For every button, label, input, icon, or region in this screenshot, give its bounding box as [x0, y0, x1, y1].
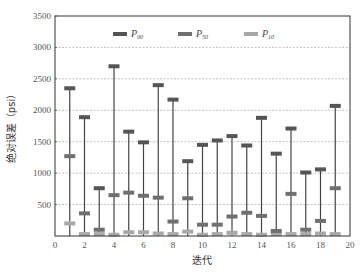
marker-p90 — [109, 64, 120, 68]
marker-p90 — [212, 138, 223, 142]
x-tick-label: 20 — [346, 240, 356, 250]
range-chart: 500100015002000250030003500 024681012141… — [0, 0, 361, 273]
x-tick-label: 6 — [141, 240, 146, 250]
y-tick-label: 3000 — [33, 42, 52, 52]
marker-p50 — [64, 154, 75, 158]
legend-subscript: 90 — [137, 34, 143, 40]
marker-p90 — [94, 186, 105, 190]
x-tick-label: 0 — [53, 240, 58, 250]
marker-p50 — [286, 192, 297, 196]
legend-label-p10: P10 — [261, 28, 274, 40]
x-tick-label: 18 — [316, 240, 326, 250]
marker-p90 — [286, 127, 297, 131]
marker-p10 — [123, 230, 134, 234]
marker-p10 — [227, 231, 238, 235]
legend-swatch-p50 — [178, 32, 192, 36]
marker-p90 — [79, 115, 90, 119]
marker-p50 — [256, 214, 267, 218]
marker-p90 — [315, 167, 326, 171]
y-tick-label: 500 — [38, 200, 52, 210]
marker-p50 — [94, 228, 105, 232]
marker-p10 — [64, 221, 75, 225]
marker-p50 — [138, 194, 149, 198]
marker-p50 — [315, 219, 326, 223]
marker-p50 — [227, 215, 238, 219]
legend-subscript: 10 — [268, 34, 274, 40]
legend-label-p50: P50 — [195, 28, 208, 40]
marker-p50 — [79, 211, 90, 215]
marker-p50 — [300, 228, 311, 232]
marker-p50 — [168, 220, 179, 224]
legend-label-p90: P90 — [130, 28, 143, 40]
marker-p90 — [168, 98, 179, 102]
marker-p90 — [123, 130, 134, 134]
marker-p50 — [241, 211, 252, 215]
legend-swatch-p90 — [113, 32, 127, 36]
y-tick-label: 2500 — [33, 74, 52, 84]
x-tick-label: 12 — [228, 240, 237, 250]
x-tick-label: 14 — [257, 240, 267, 250]
marker-p90 — [153, 83, 164, 87]
y-tick-label: 1000 — [33, 168, 52, 178]
y-axis-title: 绝对误差（psi） — [5, 89, 17, 163]
marker-p10 — [182, 230, 193, 234]
marker-p50 — [182, 196, 193, 200]
marker-p90 — [197, 143, 208, 147]
marker-p90 — [138, 140, 149, 144]
y-tick-label: 2000 — [33, 105, 52, 115]
y-tick-label: 3500 — [33, 11, 52, 21]
marker-p90 — [227, 134, 238, 138]
marker-p50 — [271, 229, 282, 233]
marker-p90 — [256, 116, 267, 120]
x-axis-ticks: 02468101214161820 — [53, 240, 355, 250]
marker-p50 — [212, 223, 223, 227]
marker-p50 — [123, 191, 134, 195]
whisker-lines — [70, 66, 336, 236]
marker-p90 — [64, 86, 75, 90]
marker-p10 — [315, 231, 326, 235]
y-axis-ticks: 500100015002000250030003500 — [33, 11, 57, 210]
legend-swatch-p10 — [244, 32, 258, 36]
marker-p50 — [109, 193, 120, 197]
x-tick-label: 16 — [287, 240, 297, 250]
legend-subscript: 50 — [202, 34, 208, 40]
y-tick-label: 1500 — [33, 137, 52, 147]
marker-p50 — [197, 223, 208, 227]
marker-p90 — [182, 159, 193, 163]
legend: P90P50P10 — [113, 28, 274, 40]
marker-p90 — [271, 152, 282, 156]
marker-p90 — [300, 171, 311, 175]
x-tick-label: 10 — [198, 240, 208, 250]
marker-p50 — [330, 186, 341, 190]
x-tick-label: 8 — [171, 240, 176, 250]
marker-p90 — [330, 104, 341, 108]
marker-p50 — [153, 196, 164, 200]
x-tick-label: 2 — [82, 240, 87, 250]
x-tick-label: 4 — [112, 240, 117, 250]
marker-p10 — [138, 230, 149, 234]
x-axis-title: 迭代 — [192, 255, 212, 266]
marker-p90 — [241, 143, 252, 147]
marker-p10 — [153, 231, 164, 235]
